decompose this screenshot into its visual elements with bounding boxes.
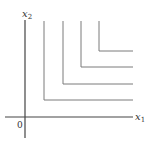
indifference-curve-3: [81, 21, 133, 67]
origin-label: 0: [17, 120, 23, 130]
indifference-curve-4: [99, 21, 133, 51]
y-axis-label: x2: [22, 8, 32, 21]
indifference-curve-diagram: x2 x1 0: [0, 0, 149, 141]
indifference-curve-1: [44, 21, 133, 100]
indifference-curve-2: [63, 21, 133, 84]
x-axis-label: x1: [135, 111, 145, 124]
